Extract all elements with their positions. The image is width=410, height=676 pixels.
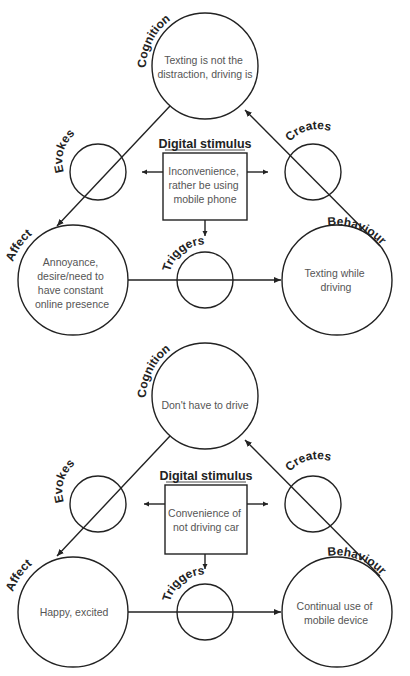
cognition-circle: [152, 13, 258, 119]
cognition-text: Don't have to drive: [161, 399, 248, 411]
cognition-label: Cognition: [135, 341, 173, 398]
triggers-label: Triggers: [159, 563, 205, 603]
digital-stimulus-title: Digital stimulus: [159, 469, 252, 483]
behaviour-text: Continual use of mobile device: [297, 600, 376, 626]
creates-circle: [285, 144, 341, 200]
stimulus-text: Convenience of not driving car: [168, 507, 244, 533]
evokes-circle: [70, 476, 126, 532]
affect-text: Happy, excited: [40, 606, 109, 618]
creates-label: Creates: [282, 448, 333, 474]
evokes-label: Evokes: [51, 126, 77, 175]
diagram-canvas: Cognition Texting is not the distraction…: [0, 0, 410, 676]
cognition-to-affect-arrow: [57, 436, 170, 556]
behaviour-label: Behaviour: [327, 214, 389, 247]
affect-label: Affect: [3, 556, 35, 593]
cognition-circle: [152, 343, 258, 449]
creates-circle: [285, 476, 341, 532]
stimulus-text: Inconvenience, rather be using mobile ph…: [168, 165, 242, 205]
behaviour-circle: [282, 557, 392, 667]
behaviour-label: Behaviour: [327, 544, 389, 577]
diagram-top-text: Cognition Texting is not the distraction…: [3, 11, 390, 310]
digital-stimulus-box: [165, 485, 247, 554]
creates-label: Creates: [282, 118, 333, 144]
cognition-text: Texting is not the distraction, driving …: [157, 54, 252, 80]
digital-stimulus-title: Digital stimulus: [158, 137, 251, 151]
cognition-to-affect-arrow: [57, 106, 170, 226]
evokes-circle: [70, 144, 126, 200]
behaviour-text: Texting while driving: [304, 267, 367, 293]
affect-label: Affect: [3, 226, 35, 263]
evokes-label: Evokes: [51, 456, 77, 505]
affect-text: Annoyance, desire/need to have constant …: [35, 256, 109, 310]
